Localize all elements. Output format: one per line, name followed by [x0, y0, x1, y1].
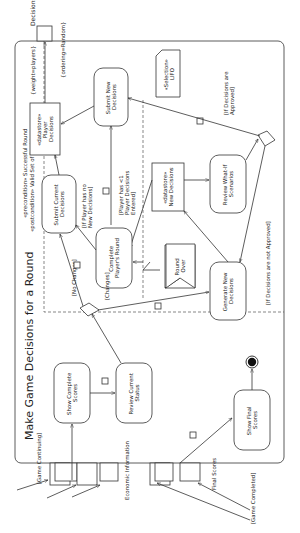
- object-token: [190, 432, 196, 438]
- pin-economic-information-label: Economic Information: [124, 441, 130, 500]
- guard-approved: [If Decisions are Approved]: [223, 70, 236, 115]
- input-pin-3: [77, 463, 97, 485]
- decision-node-approval: [258, 131, 275, 146]
- guard-no-new-decisions: [If Player has no New Decisions]: [81, 183, 93, 228]
- input-pin-6: [155, 463, 173, 481]
- guard-game-continuing: [Game Continuing]: [36, 433, 43, 484]
- guard-changes: [Changes]: [104, 272, 111, 300]
- input-pin-7: [180, 463, 200, 481]
- precondition-label: «precondition» Successful Round: [22, 129, 29, 218]
- datastore-new-decisions-label: «datastore» New Decisions: [162, 167, 174, 206]
- object-token: [103, 188, 109, 194]
- activity-diagram: Make Game Decisions for a Round «precond…: [0, 0, 300, 533]
- object-token: [102, 378, 108, 384]
- object-token: [74, 262, 80, 268]
- input-pin-4: [100, 463, 118, 481]
- weight-annotation: {weight=players}: [30, 46, 37, 95]
- object-token: [155, 303, 161, 309]
- pin-decisions: [37, 26, 52, 41]
- guard-game-completed: [Game Completed]: [250, 473, 257, 524]
- action-label: Submit New Decisions: [105, 80, 117, 114]
- ordering-annotation: {ordering=Random}: [60, 22, 67, 78]
- pin-final-scores-label: Final Scores: [211, 458, 217, 490]
- input-pin-2: [55, 463, 77, 481]
- guard-less-than-one: [Player has <1 Player Decisions Entered]: [118, 169, 136, 215]
- guard-not-approved: [If Decisions are not Approved]: [265, 221, 272, 305]
- pin-decisions-label: Decisions: [29, 0, 36, 26]
- diagram-title: Make Game Decisions for a Round: [23, 252, 36, 440]
